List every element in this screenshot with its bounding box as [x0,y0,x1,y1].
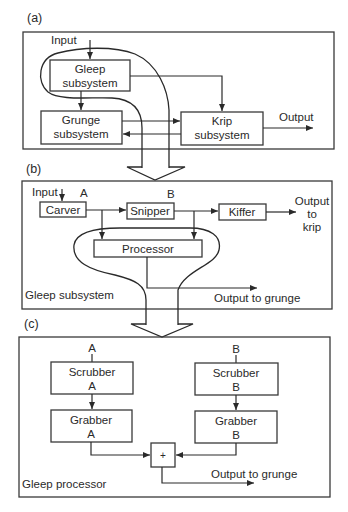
processor-box: Processor [94,240,202,257]
output-krip-line3: krip [303,221,322,233]
panel-c-label: (c) [24,317,39,331]
grabber-a-to-sum-arrow [91,442,150,455]
carver-box: Carver [40,202,86,217]
snipper-label: Snipper [130,205,170,217]
panel-a-label: (a) [27,11,42,25]
panel-a-input-label: Input [51,34,77,46]
grunge-box-line2: subsystem [54,128,109,140]
scrubber-b-line1: Scrubber [213,367,260,379]
panel-b-label: (b) [26,162,41,176]
kiffer-label: Kiffer [229,206,256,218]
sum-junction-box: + [151,443,175,467]
gleep-box-line2: subsystem [63,77,118,89]
zoom-arrowhead-b-to-c [131,324,193,337]
krip-box-line1: Krip [212,115,232,127]
panel-b-output-grunge-label: Output to grunge [214,292,300,304]
snipper-box: Snipper [127,203,174,219]
panel-b: (b) Input A B Carver Snipper Kiffer Proc… [22,162,332,337]
scrubber-a-line2: A [88,380,96,392]
gleep-subsystem-box: Gleep subsystem [50,60,130,91]
panel-c-output-grunge-label: Output to grunge [211,468,297,480]
grabber-a-line1: Grabber [70,414,112,426]
grabber-b-to-sum-arrow [176,443,236,455]
scrubber-b-box: Scrubber B [195,363,278,395]
scrubber-b-line2: B [232,381,240,393]
system-decomposition-diagram: (a) Input Gleep subsystem Grunge subsyst… [0,0,348,512]
grabber-b-line2: B [232,429,240,441]
panel-c: (c) A B Scrubber A Scrubber B Grabber A … [19,317,330,497]
carver-label: Carver [46,204,81,216]
gleep-box-line1: Gleep [75,63,106,75]
panel-b-caption: Gleep subsystem [25,289,114,301]
zoom-arrowhead-a-to-b [127,167,185,180]
processor-output-arrow [147,257,257,288]
scrubber-a-line1: Scrubber [69,366,116,378]
panel-c-input-a: A [88,342,96,354]
panel-c-caption: Gleep processor [22,478,107,490]
grabber-a-line2: A [87,428,95,440]
grunge-subsystem-box: Grunge subsystem [41,111,122,144]
panel-a-output-label: Output [279,111,314,123]
krip-box-line2: subsystem [195,129,250,141]
grabber-b-line1: Grabber [215,415,257,427]
point-a-label: A [80,187,88,199]
panel-c-input-b: B [232,343,240,355]
grunge-box-line1: Grunge [62,114,100,126]
sum-symbol: + [160,450,166,461]
kiffer-box: Kiffer [219,204,266,220]
scrubber-a-box: Scrubber A [51,362,133,394]
grabber-b-box: Grabber B [195,411,277,443]
krip-subsystem-box: Krip subsystem [181,112,263,145]
point-b-label: B [167,188,175,200]
output-krip-line1: Output [295,195,330,207]
output-krip-line2: to [307,208,317,220]
panel-b-input-label: Input [32,186,58,198]
panel-a: (a) Input Gleep subsystem Grunge subsyst… [23,11,334,180]
grabber-a-box: Grabber A [51,410,132,442]
gleep-to-krip-arrow [130,76,222,111]
processor-label: Processor [122,243,174,255]
